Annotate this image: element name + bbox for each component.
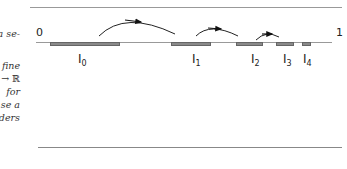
arrows xyxy=(0,0,347,60)
interval-label-2: I2 xyxy=(251,52,260,68)
text-line: se a xyxy=(1,99,20,110)
text-line: iders xyxy=(0,112,20,123)
interval-label-1: I1 xyxy=(192,52,201,68)
interval-label-3: I3 xyxy=(283,52,292,68)
arrow-i2-to-i3 xyxy=(256,34,279,40)
text-line: fine xyxy=(2,60,20,71)
bottom-rule xyxy=(38,147,342,148)
interval-label-0: I0 xyxy=(78,52,87,68)
text-line: → ℝ xyxy=(1,73,20,84)
interval-label-4: I4 xyxy=(303,52,312,68)
arrow-i1-to-i2 xyxy=(196,29,238,36)
arrow-i0-to-i1 xyxy=(99,22,175,36)
text-line: for xyxy=(6,86,20,97)
